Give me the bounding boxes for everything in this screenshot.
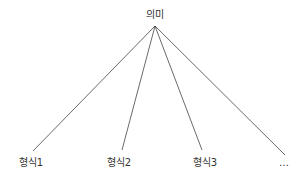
tree-lines — [0, 0, 305, 183]
edge-1 — [33, 26, 155, 151]
child-label-1: 형식1 — [19, 157, 43, 169]
edge-4 — [155, 26, 285, 155]
child-label-ellipsis: … — [279, 157, 289, 169]
edge-3 — [155, 26, 202, 150]
edge-2 — [122, 26, 155, 150]
root-label: 의미 — [146, 9, 164, 21]
child-label-2: 형식2 — [107, 157, 131, 169]
child-label-3: 형식3 — [193, 157, 217, 169]
